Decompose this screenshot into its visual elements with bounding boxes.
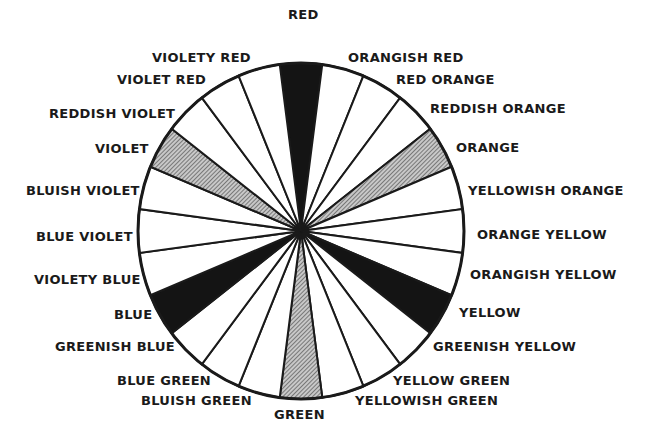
label-violet-red: VIOLET RED xyxy=(117,72,206,87)
label-orangish-yellow: ORANGISH YELLOW xyxy=(470,267,617,282)
label-bluish-violet: BLUISH VIOLET xyxy=(26,183,140,198)
label-reddish-violet: REDDISH VIOLET xyxy=(49,106,175,121)
label-red: RED xyxy=(288,7,319,22)
label-yellow-green: YELLOW GREEN xyxy=(393,373,510,388)
label-orange-yellow: ORANGE YELLOW xyxy=(477,227,607,242)
label-violety-red: VIOLETY RED xyxy=(152,50,251,65)
label-blue: BLUE xyxy=(114,307,152,322)
label-greenish-blue: GREENISH BLUE xyxy=(55,339,175,354)
label-red-orange: RED ORANGE xyxy=(396,72,495,87)
label-greenish-yellow: GREENISH YELLOW xyxy=(433,339,576,354)
color-wheel xyxy=(0,0,653,448)
label-orangish-red: ORANGISH RED xyxy=(348,50,464,65)
label-blue-violet: BLUE VIOLET xyxy=(36,229,133,244)
label-green: GREEN xyxy=(274,407,325,422)
label-reddish-orange: REDDISH ORANGE xyxy=(430,101,566,116)
label-yellowish-orange: YELLOWISH ORANGE xyxy=(468,183,624,198)
label-blue-green: BLUE GREEN xyxy=(117,373,211,388)
label-violety-blue: VIOLETY BLUE xyxy=(34,272,141,287)
label-yellow: YELLOW xyxy=(459,305,521,320)
label-violet: VIOLET xyxy=(95,141,149,156)
label-yellowish-green: YELLOWISH GREEN xyxy=(355,393,498,408)
label-bluish-green: BLUISH GREEN xyxy=(141,393,252,408)
label-orange: ORANGE xyxy=(456,140,519,155)
